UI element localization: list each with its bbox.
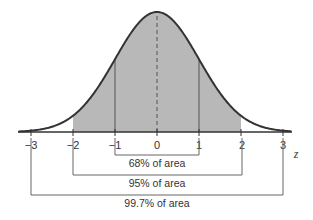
z-axis-label: z	[293, 147, 299, 161]
tick-label: 0	[154, 139, 160, 151]
normal-distribution-diagram: −3 −2 −1 0 1 2 3 z 68% of area 95% of ar…	[0, 0, 313, 220]
bracket-99-7-label: 99.7% of area	[124, 197, 190, 209]
bracket-95-label: 95% of area	[129, 177, 186, 189]
bracket-68-label: 68% of area	[129, 157, 186, 169]
